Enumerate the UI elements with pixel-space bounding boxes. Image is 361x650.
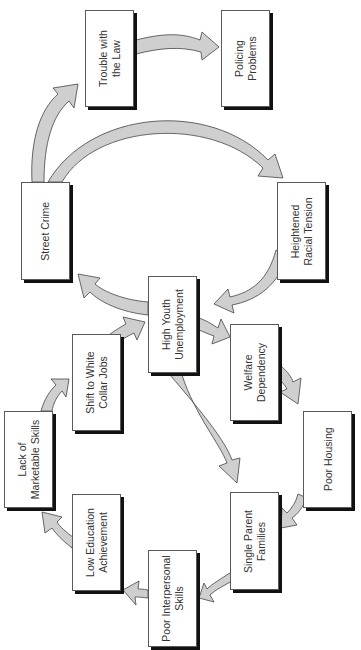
node-label: Trouble with the Law [97,30,122,87]
node-label: Welfare Dependency [242,343,267,402]
node-poor-housing: Poor Housing [303,411,352,508]
node-policing-problems: Policing Problems [221,10,270,107]
arrow-street-to-racial [48,121,283,182]
arrow-trouble-to-policing [136,32,219,60]
node-label: Single Parent Families [242,509,267,572]
node-label: Poor Housing [321,428,334,492]
node-high-youth-unemployment: High Youth Unemployment [148,276,197,373]
node-label: Policing Problems [233,36,258,80]
node-label: Street Crime [39,202,52,261]
node-trouble-with-the-law: Trouble with the Law [85,10,134,107]
node-heightened-racial-tension: Heightened Racial Tension [277,182,326,280]
arrow-lack-to-shift [41,379,69,411]
arrow-education-to-lack [42,512,74,548]
node-label: Shift to White Collar Jobs [84,351,109,413]
node-lack-of-marketable-skills: Lack of Marketable Skills [4,411,53,508]
node-label: High Youth Unemployment [160,289,185,360]
node-label: Heightened Racial Tension [289,197,314,265]
node-low-education-achievement: Low Education Achievement [72,494,121,591]
node-welfare-dependency: Welfare Dependency [230,324,279,421]
node-single-parent-families: Single Parent Families [230,492,279,590]
node-street-crime: Street Crime [21,182,70,280]
arrow-interpersonal-to-education [123,581,148,605]
node-label: Poor Interpersonal Skills [160,555,185,641]
node-poor-interpersonal-skills: Poor Interpersonal Skills [148,550,197,647]
node-label: Low Education Achievement [84,508,109,577]
cycle-diagram: Trouble with the Law Policing Problems S… [0,0,361,650]
arrow-youth-to-welfare [199,318,230,344]
node-shift-to-white-collar-jobs: Shift to White Collar Jobs [72,334,121,431]
arrow-welfare-to-housing [278,366,301,404]
arrow-youth-to-street [78,274,148,315]
arrow-single-to-interpersonal [199,573,234,602]
node-label: Lack of Marketable Skills [16,420,41,499]
